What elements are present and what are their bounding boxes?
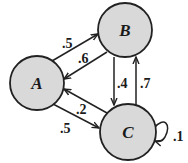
- node-b: B: [98, 3, 152, 57]
- node-c: C: [100, 104, 156, 160]
- edge-label-c-a: .2: [76, 102, 87, 117]
- edge-label-c-c: .1: [173, 129, 184, 144]
- edge-a-to-b: [52, 34, 98, 61]
- edge-label-a-c: .5: [60, 121, 71, 136]
- edge-label-b-c: .4: [117, 76, 128, 91]
- markov-chain-diagram: .5 .6 .4 .7 .2 .5 .1 A B C: [0, 0, 188, 163]
- node-a: A: [10, 56, 64, 110]
- node-b-label: B: [118, 21, 130, 40]
- edge-label-b-a: .6: [78, 51, 89, 66]
- node-a-label: A: [30, 74, 42, 93]
- node-c-label: C: [122, 123, 134, 142]
- edge-label-c-b: .7: [140, 76, 151, 91]
- edge-label-a-b: .5: [62, 36, 73, 51]
